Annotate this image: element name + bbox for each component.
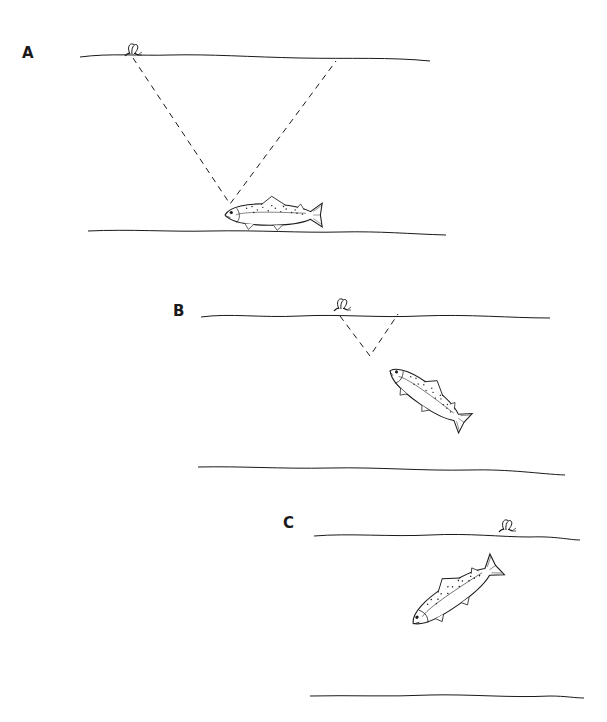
river-bottom-b — [198, 467, 565, 475]
vision-cone-b — [340, 314, 398, 356]
water-surface-a — [80, 55, 430, 61]
trout-icon — [225, 196, 322, 230]
diagram-canvas — [0, 0, 607, 722]
mayfly-icon — [125, 44, 142, 56]
panel-b — [198, 299, 565, 475]
river-bottom-c — [310, 695, 584, 698]
trout-icon — [402, 548, 507, 636]
vision-cone-a — [133, 58, 336, 204]
panel-a — [80, 44, 446, 235]
water-surface-c — [314, 534, 580, 540]
mayfly-icon — [334, 299, 351, 311]
river-bottom-a — [88, 230, 446, 235]
panel-c — [310, 520, 584, 698]
mayfly-icon — [499, 520, 516, 532]
water-surface-b — [201, 315, 550, 318]
trout-icon — [381, 355, 476, 436]
